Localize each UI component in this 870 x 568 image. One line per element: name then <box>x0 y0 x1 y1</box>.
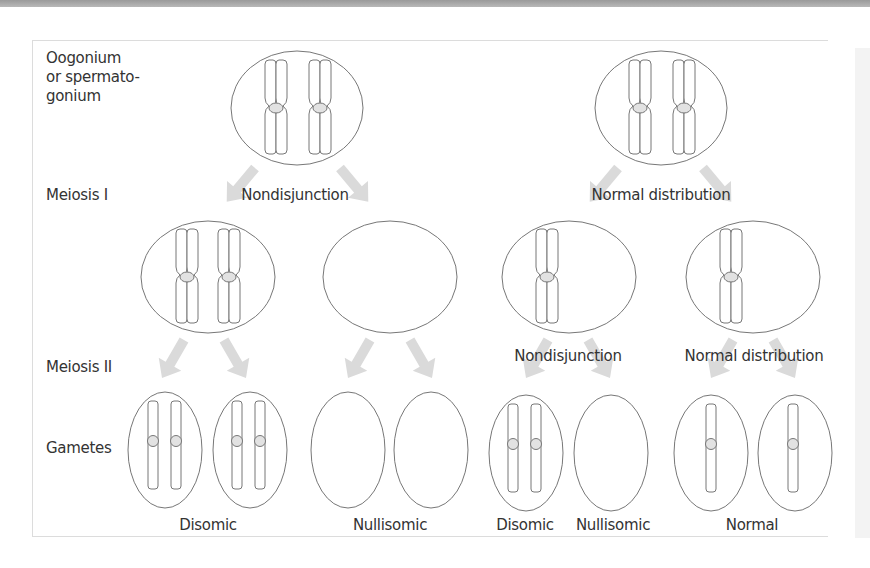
gamete-right-3 <box>674 395 748 511</box>
event-label-right-b-meiosis2: Normal distribution <box>685 347 824 365</box>
parent-cell-left <box>231 51 363 165</box>
row-label-meiosis1: Meiosis I <box>46 186 108 204</box>
gamete-left-4 <box>394 392 468 508</box>
meiosis1-cell-left-a <box>141 221 275 333</box>
row-label-parent-line2: or spermato- <box>46 68 140 86</box>
meiosis1-cell-right-a <box>502 221 636 333</box>
event-label-left-meiosis1: Nondisjunction <box>241 186 348 204</box>
gamete-label-left-nullisomic: Nullisomic <box>353 516 427 534</box>
event-label-right-a-meiosis2: Nondisjunction <box>514 347 621 365</box>
meiosis1-cell-right-b <box>686 221 820 333</box>
gamete-label-left-disomic: Disomic <box>179 516 237 534</box>
gamete-left-1 <box>128 392 202 508</box>
gamete-right-1 <box>489 395 563 511</box>
gamete-left-2 <box>213 392 287 508</box>
row-label-gametes: Gametes <box>46 439 111 457</box>
row-label-meiosis2: Meiosis II <box>46 358 112 376</box>
event-label-right-meiosis1: Normal distribution <box>592 186 731 204</box>
row-label-parent-line1: Oogonium <box>46 49 121 67</box>
gamete-label-right-nullisomic: Nullisomic <box>576 516 650 534</box>
gamete-label-right-normal: Normal <box>726 516 778 534</box>
gamete-label-right-disomic: Disomic <box>496 516 554 534</box>
row-label-parent-line3: gonium <box>46 87 101 105</box>
gamete-right-2 <box>574 395 648 511</box>
gamete-right-4 <box>758 395 832 511</box>
gamete-left-3 <box>311 392 385 508</box>
parent-cell-right <box>595 51 727 165</box>
gametes-row <box>128 392 832 511</box>
meiosis1-cell-left-b <box>323 221 457 333</box>
